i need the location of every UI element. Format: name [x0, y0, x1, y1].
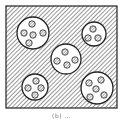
hatched-particle: [29, 21, 35, 27]
hatched-particle: [32, 92, 38, 98]
hatched-particle: [26, 40, 32, 46]
hatched-particle: [101, 92, 107, 98]
hatched-particle: [54, 58, 60, 64]
hatched-particle: [95, 35, 101, 41]
hatched-particle: [93, 86, 99, 92]
diagram-canvas: [0, 0, 123, 123]
hatched-particle: [21, 30, 27, 36]
hatched-particle: [87, 94, 93, 100]
hatched-particle: [40, 30, 46, 36]
domain-top-right: [82, 22, 106, 46]
hatched-particle: [85, 35, 91, 41]
hatched-particle: [62, 49, 68, 55]
hatched-particle: [64, 62, 70, 68]
domain-bottom-left: [22, 74, 48, 100]
hatched-particle: [86, 80, 92, 86]
domain-center: [51, 44, 81, 74]
hatched-particle: [72, 57, 78, 63]
domain-top-left: [17, 17, 49, 49]
domain-bottom-right: [81, 72, 113, 104]
figure-caption: (b) …: [0, 112, 123, 119]
hatched-particle: [90, 26, 96, 32]
hatched-particle: [38, 85, 44, 91]
hatched-particle: [33, 78, 39, 84]
hatched-particle: [30, 32, 36, 38]
hatched-particle: [98, 77, 104, 83]
hatched-particle: [25, 85, 31, 91]
